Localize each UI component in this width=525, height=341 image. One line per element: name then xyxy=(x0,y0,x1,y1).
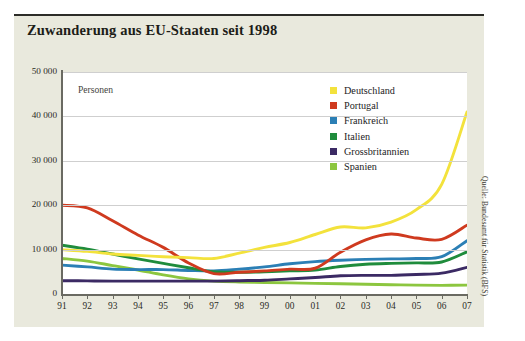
x-axis-tick xyxy=(442,294,443,299)
x-axis-tick xyxy=(391,294,392,299)
x-axis-tick-label: 95 xyxy=(150,301,176,311)
legend-swatch-icon xyxy=(330,102,337,109)
x-axis-tick xyxy=(87,294,88,299)
chart-legend: DeutschlandPortugalFrankreichItalienGros… xyxy=(330,83,409,174)
x-axis-tick-label: 04 xyxy=(378,301,404,311)
x-axis-tick xyxy=(214,294,215,299)
x-axis-tick-label: 99 xyxy=(252,301,278,311)
x-axis-tick-label: 06 xyxy=(429,301,455,311)
x-axis-tick-label: 03 xyxy=(353,301,379,311)
legend-swatch-icon xyxy=(330,87,337,94)
x-axis-tick xyxy=(340,294,341,299)
legend-item[interactable]: Deutschland xyxy=(330,83,409,98)
legend-label: Portugal xyxy=(344,100,379,111)
legend-item[interactable]: Portugal xyxy=(330,98,409,113)
chart-figure: Zuwanderung aus EU-Staaten seit 1998 010… xyxy=(0,0,525,341)
x-axis-tick-label: 01 xyxy=(302,301,328,311)
x-axis-tick xyxy=(416,294,417,299)
y-axis-line xyxy=(61,70,63,296)
y-axis-tick-label: 10 000 xyxy=(5,244,57,254)
legend-swatch-icon xyxy=(330,133,337,140)
x-axis-tick xyxy=(189,294,190,299)
axis-unit-label: Personen xyxy=(78,84,113,95)
x-axis-tick-label: 92 xyxy=(74,301,100,311)
y-axis-tick-label: 30 000 xyxy=(5,155,57,165)
gridline xyxy=(62,205,467,206)
x-axis-tick-label: 00 xyxy=(277,301,303,311)
legend-label: Spanien xyxy=(344,161,377,172)
legend-item[interactable]: Grossbritannien xyxy=(330,144,409,159)
y-axis-tick-labels: 010 00020 00030 00040 00050 000 xyxy=(0,0,57,341)
legend-item[interactable]: Spanien xyxy=(330,159,409,174)
gridline xyxy=(62,72,467,73)
x-axis-tick-label: 91 xyxy=(49,301,75,311)
x-axis-tick xyxy=(290,294,291,299)
y-axis-tick-label: 0 xyxy=(5,288,57,298)
x-axis-tick-label: 93 xyxy=(100,301,126,311)
page-title: Zuwanderung aus EU-Staaten seit 1998 xyxy=(27,22,277,39)
x-axis-tick-label: 96 xyxy=(176,301,202,311)
legend-label: Deutschland xyxy=(344,85,395,96)
legend-label: Grossbritannien xyxy=(344,146,409,157)
legend-label: Italien xyxy=(344,131,370,142)
legend-swatch-icon xyxy=(330,117,337,124)
x-axis-tick-label: 94 xyxy=(125,301,151,311)
legend-item[interactable]: Frankreich xyxy=(330,113,409,128)
y-axis-tick-label: 20 000 xyxy=(5,199,57,209)
x-axis-tick xyxy=(265,294,266,299)
x-axis-tick xyxy=(113,294,114,299)
x-axis-tick-label: 05 xyxy=(403,301,429,311)
x-axis-tick xyxy=(366,294,367,299)
title-divider xyxy=(14,14,484,16)
y-axis-tick-label: 50 000 xyxy=(5,66,57,76)
gridline xyxy=(62,250,467,251)
x-axis-tick xyxy=(138,294,139,299)
legend-item[interactable]: Italien xyxy=(330,129,409,144)
x-axis-tick xyxy=(239,294,240,299)
x-axis-tick xyxy=(62,294,63,299)
x-axis-tick-label: 98 xyxy=(226,301,252,311)
x-axis-tick xyxy=(315,294,316,299)
y-axis-tick-label: 40 000 xyxy=(5,110,57,120)
x-axis-tick-label: 97 xyxy=(201,301,227,311)
legend-swatch-icon xyxy=(330,148,337,155)
x-axis-tick-label: 07 xyxy=(454,301,480,311)
source-note: Quelle: Bundesamt für Statistik (BFS) xyxy=(480,176,489,326)
x-axis-tick xyxy=(163,294,164,299)
x-axis-tick xyxy=(467,294,468,299)
x-axis-tick-label: 02 xyxy=(327,301,353,311)
legend-swatch-icon xyxy=(330,163,337,170)
legend-label: Frankreich xyxy=(344,115,388,126)
